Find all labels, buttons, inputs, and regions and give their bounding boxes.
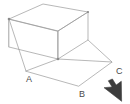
connector-edge-left bbox=[9, 19, 26, 71]
box-front-right-face bbox=[58, 12, 88, 59]
vertex-label-c: C bbox=[116, 66, 123, 76]
connector-edge-right bbox=[88, 40, 112, 62]
vertex-dot-right bbox=[87, 11, 89, 13]
box-front-left-face bbox=[9, 19, 58, 59]
vertex-dot-left bbox=[8, 18, 11, 21]
base-parallelogram bbox=[26, 59, 112, 86]
vertex-label-a: A bbox=[26, 74, 32, 84]
diagram-canvas: A B C bbox=[0, 0, 130, 104]
vertex-dot-center bbox=[57, 58, 60, 61]
box-top-face bbox=[9, 4, 88, 31]
geometry-figure: A B C bbox=[0, 0, 130, 104]
vertex-label-b: B bbox=[79, 89, 85, 99]
